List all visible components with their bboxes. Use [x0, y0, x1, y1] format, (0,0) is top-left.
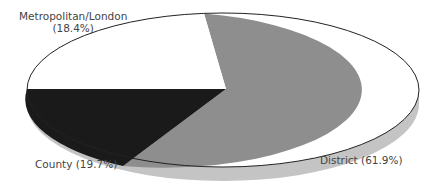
slice-label-county: County (19.7%): [35, 158, 117, 170]
slice-label-metropolitan-london: Metropolitan/London (18.4%): [19, 10, 127, 34]
slice-label-metropolitan-london-name: Metropolitan/London: [19, 10, 127, 22]
slice-label-metropolitan-london-pct: (18.4%): [19, 22, 127, 34]
slice-label-district: District (61.9%): [320, 154, 403, 166]
